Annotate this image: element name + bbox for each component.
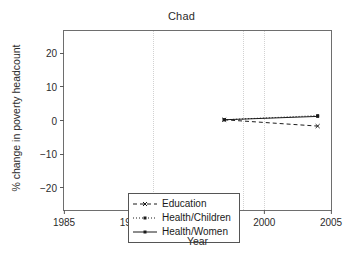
gridline-2000 — [331, 31, 332, 210]
x-tick-2000: 2000 — [253, 217, 275, 228]
x-tick-2005: 2005 — [320, 217, 342, 228]
x-tick-1985: 1985 — [53, 217, 75, 228]
legend-key-education-icon — [132, 198, 158, 210]
y-tick-20: 20 — [18, 48, 64, 59]
data-series-layer — [64, 31, 331, 210]
page-title: Chad — [0, 10, 363, 22]
y-tick-neg20: −20 — [18, 182, 64, 193]
y-tick-neg10: −10 — [18, 149, 64, 160]
legend-label-health-children: Health/Children — [162, 212, 231, 224]
y-tick-0: 0 — [18, 115, 64, 126]
plot-area: 20 10 0 −10 −20 1985 1990 1995 2000 2005… — [63, 30, 332, 211]
data-point-marker — [223, 118, 226, 121]
legend-item-education[interactable]: Education — [132, 197, 235, 211]
legend-label-education: Education — [162, 198, 206, 210]
data-point-marker — [316, 115, 319, 118]
x-axis-label: Year — [63, 235, 332, 247]
legend-item-health-children[interactable]: Health/Children — [132, 211, 235, 225]
y-axis-label: % change in poverty headcount — [10, 28, 22, 208]
y-tick-10: 10 — [18, 81, 64, 92]
chart-figure: Chad 20 10 0 −10 −20 1985 1990 1995 2000… — [0, 0, 363, 267]
legend-key-health-children-icon — [132, 212, 158, 224]
